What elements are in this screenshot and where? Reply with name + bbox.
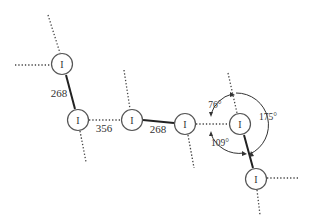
distance-label-b-c: 356	[96, 122, 113, 134]
contact-b-down	[80, 131, 86, 162]
atom-f: I	[246, 169, 267, 190]
contact-f-down	[257, 190, 260, 215]
atom-label: I	[60, 59, 63, 70]
bond-a-b	[66, 75, 75, 109]
atom-label: I	[238, 119, 241, 130]
contact-d-down	[188, 135, 194, 168]
arrow-head-icon	[242, 151, 247, 156]
covalent-bonds	[66, 75, 253, 168]
atom-c: I	[122, 110, 143, 131]
bond-e-f	[244, 135, 253, 168]
angle-label-right: 175°	[259, 112, 277, 122]
contact-a-up	[48, 15, 60, 53]
distance-label-c-d: 268	[150, 123, 167, 135]
iodine-chain-diagram: I I I I I I 268 356 268 76° 109° 175°	[0, 0, 319, 224]
contact-e-up	[228, 73, 237, 113]
atom-label: I	[130, 115, 133, 126]
atom-label: I	[76, 115, 79, 126]
atom-a: I	[52, 54, 73, 75]
angle-label-upper: 76°	[208, 100, 222, 110]
atom-d: I	[175, 114, 196, 135]
arrow-head-icon	[209, 112, 213, 117]
distance-label-a-b: 268	[51, 87, 68, 99]
arrow-head-icon	[209, 131, 213, 136]
atom-e: I	[230, 114, 251, 135]
atom-b: I	[68, 110, 89, 131]
atom-label: I	[254, 174, 257, 185]
contact-c-up	[124, 70, 130, 109]
atom-label: I	[183, 119, 186, 130]
angle-label-lower: 109°	[211, 138, 229, 148]
